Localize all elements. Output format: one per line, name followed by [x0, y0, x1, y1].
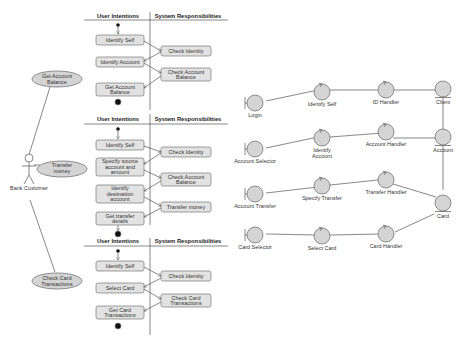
svg-text:money: money: [54, 168, 71, 174]
svg-text:Transactions: Transactions: [104, 312, 136, 318]
swimlane-3: User Intentions System Responsibilities …: [84, 238, 228, 335]
swimlane-2: User Intentions System Responsibilities …: [84, 114, 228, 237]
control-identify-self[interactable]: Identify Self: [308, 83, 337, 107]
svg-text:User Intentions: User Intentions: [97, 238, 139, 244]
control-card-handler[interactable]: Card Handler: [370, 225, 403, 249]
robustness-links: [266, 90, 443, 235]
svg-text:Identify Self: Identify Self: [106, 263, 135, 269]
svg-text:Identify Self: Identify Self: [106, 142, 135, 148]
control-identify-account[interactable]: Identify Account: [312, 129, 332, 159]
svg-text:System Responsibilities: System Responsibilities: [155, 116, 222, 122]
boundary-card-selector[interactable]: Card Selector: [238, 227, 272, 250]
svg-text:Balance: Balance: [47, 79, 67, 85]
use-case-associations: [28, 87, 55, 272]
svg-text:Bank Customer: Bank Customer: [10, 185, 48, 191]
svg-text:Balance: Balance: [110, 89, 130, 95]
svg-text:Check Identity: Check Identity: [169, 149, 204, 155]
svg-text:Transactions: Transactions: [170, 300, 202, 306]
svg-text:Transfer money: Transfer money: [167, 204, 206, 210]
svg-text:Login: Login: [248, 112, 261, 118]
svg-text:Transfer Handler: Transfer Handler: [365, 189, 406, 195]
svg-text:Check Identity: Check Identity: [169, 273, 204, 279]
entity-card[interactable]: Card: [435, 195, 451, 219]
svg-text:Card: Card: [437, 213, 449, 219]
use-case-transfer[interactable]: Transfer money: [37, 161, 87, 177]
control-account-handler[interactable]: Account Handler: [366, 123, 407, 147]
svg-text:Card Selector: Card Selector: [238, 244, 272, 250]
svg-text:account: account: [110, 196, 130, 202]
svg-text:Specify Transfer: Specify Transfer: [302, 195, 342, 201]
svg-text:Account: Account: [312, 153, 332, 159]
svg-text:ID Handler: ID Handler: [373, 99, 399, 105]
boundary-account-selector[interactable]: Account Selector: [234, 141, 276, 164]
svg-text:User Intentions: User Intentions: [97, 116, 139, 122]
svg-text:Select Card: Select Card: [106, 285, 135, 291]
boundary-account-transfer[interactable]: Account Transfer: [234, 186, 276, 209]
svg-text:details: details: [112, 218, 128, 224]
svg-text:Transactions: Transactions: [41, 281, 73, 287]
svg-text:Identify Account: Identify Account: [101, 59, 140, 65]
control-select-card[interactable]: Select Card: [308, 227, 337, 251]
svg-text:User Intentions: User Intentions: [97, 13, 139, 19]
svg-text:Account Selector: Account Selector: [234, 158, 276, 164]
control-specify-transfer[interactable]: Specify Transfer: [302, 177, 342, 201]
svg-text:Identify Self: Identify Self: [308, 101, 337, 107]
use-case-get-balance[interactable]: Get Account Balance: [32, 71, 82, 87]
svg-text:Check Identity: Check Identity: [169, 48, 204, 54]
use-case-card-transactions[interactable]: Check Card Transactions: [32, 273, 82, 289]
svg-text:Identify Self: Identify Self: [106, 37, 135, 43]
svg-text:Client: Client: [436, 99, 451, 105]
svg-text:amount: amount: [111, 169, 130, 175]
swimlane-1: User Intentions System Responsibilities …: [84, 12, 228, 110]
svg-text:System Responsibilities: System Responsibilities: [155, 13, 222, 19]
svg-text:Card Handler: Card Handler: [370, 243, 403, 249]
entity-client[interactable]: Client: [435, 81, 451, 105]
control-id-handler[interactable]: ID Handler: [373, 81, 399, 105]
entity-account[interactable]: Account: [433, 129, 453, 153]
svg-text:Balance: Balance: [176, 179, 196, 185]
svg-text:Account Handler: Account Handler: [366, 141, 407, 147]
svg-text:Account Transfer: Account Transfer: [234, 203, 276, 209]
svg-text:Balance: Balance: [176, 74, 196, 80]
boundary-login[interactable]: Login: [245, 95, 263, 118]
svg-text:Account: Account: [433, 147, 453, 153]
svg-text:System Responsibilities: System Responsibilities: [155, 238, 222, 244]
svg-text:Select Card: Select Card: [308, 245, 337, 251]
diagram-canvas: Get Account Balance Transfer money Check…: [0, 0, 467, 350]
control-transfer-handler[interactable]: Transfer Handler: [365, 171, 406, 195]
